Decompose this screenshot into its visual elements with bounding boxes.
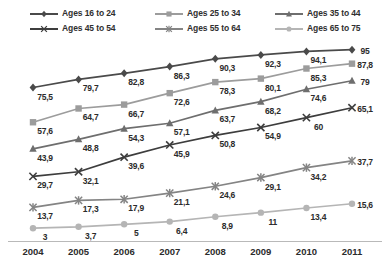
- data-point: [75, 105, 81, 111]
- data-label: 57,6: [37, 126, 53, 136]
- legend-item-ages-16-to-24[interactable]: Ages 16 to 24: [30, 6, 116, 21]
- data-point: [121, 69, 128, 77]
- data-label: 13,4: [311, 212, 327, 222]
- data-point: [30, 84, 37, 92]
- x-axis-tick-label: 2011: [342, 246, 363, 257]
- legend-marker-icon: [155, 9, 183, 19]
- x-axis-line: [8, 241, 382, 242]
- data-point: [349, 60, 355, 66]
- data-label: 94,1: [311, 55, 327, 65]
- line-chart: Ages 16 to 24Ages 45 to 54Ages 25 to 34A…: [0, 0, 390, 273]
- data-point: [30, 119, 36, 125]
- data-label: 5: [134, 228, 139, 238]
- x-axis-tick-label: 2005: [68, 246, 89, 257]
- data-label: 48,8: [83, 143, 99, 153]
- data-point: [303, 47, 310, 55]
- series-ages-25-to-34: [30, 60, 355, 125]
- data-label: 24,6: [219, 190, 235, 200]
- legend-marker-icon: [155, 24, 183, 34]
- data-label: 32,1: [83, 176, 99, 186]
- data-point: [212, 79, 218, 85]
- data-label: 60: [314, 122, 323, 132]
- data-label: 90,3: [219, 63, 235, 73]
- legend-marker-icon: [275, 9, 303, 19]
- chart-legend: Ages 16 to 24Ages 45 to 54Ages 25 to 34A…: [0, 6, 390, 36]
- x-axis-tick-label: 2009: [250, 246, 271, 257]
- data-point: [349, 201, 355, 207]
- data-label: 57,1: [174, 127, 190, 137]
- data-label: 54,3: [128, 133, 144, 143]
- legend-item-ages-35-to-44[interactable]: Ages 35 to 44: [275, 6, 361, 21]
- series-line: [33, 64, 352, 123]
- data-label: 3,7: [85, 231, 96, 241]
- data-point: [121, 101, 127, 107]
- legend-column: Ages 16 to 24Ages 45 to 54: [30, 6, 116, 36]
- legend-marker-icon: [275, 24, 303, 34]
- data-label: 39,6: [128, 161, 144, 171]
- data-label: 80,1: [265, 83, 281, 93]
- data-label: 82,8: [128, 77, 144, 87]
- data-label: 75,5: [37, 92, 53, 102]
- data-label: 8,9: [222, 221, 233, 231]
- legend-marker-icon: [30, 9, 58, 19]
- data-point: [167, 218, 173, 224]
- data-point: [258, 75, 264, 81]
- series-ages-55-to-64: [29, 157, 355, 212]
- data-label: 66,7: [128, 109, 144, 119]
- legend-item-ages-65-to-75[interactable]: Ages 65 to 75: [275, 21, 361, 36]
- data-label: 43,9: [37, 153, 53, 163]
- data-point: [212, 55, 219, 63]
- x-axis-tick-label: 2010: [296, 246, 317, 257]
- data-label: 92,3: [265, 59, 281, 69]
- legend-label: Ages 35 to 44: [307, 9, 361, 18]
- x-axis-tick-label: 2004: [22, 246, 43, 257]
- legend-marker-icon: [30, 24, 58, 34]
- series-line: [33, 161, 352, 208]
- data-point: [349, 46, 356, 54]
- data-label: 65,1: [357, 104, 373, 114]
- data-label: 21,1: [174, 197, 190, 207]
- data-point: [75, 224, 81, 230]
- data-label: 68,2: [265, 106, 281, 116]
- data-label: 87,8: [357, 60, 373, 70]
- legend-column: Ages 25 to 34Ages 55 to 64: [155, 6, 241, 36]
- data-label: 6,4: [176, 226, 187, 236]
- data-label: 95: [360, 46, 369, 56]
- data-label: 37,7: [357, 157, 373, 167]
- data-label: 45,9: [174, 149, 190, 159]
- data-label: 29,1: [265, 182, 281, 192]
- legend-label: Ages 25 to 34: [187, 9, 241, 18]
- data-label: 72,6: [174, 97, 190, 107]
- x-axis-tick-label: 2008: [205, 246, 226, 257]
- data-point: [75, 75, 82, 83]
- data-point: [258, 209, 264, 215]
- series-ages-65-to-75: [30, 201, 355, 232]
- x-axis-tick-label: 2007: [159, 246, 180, 257]
- data-label: 64,7: [83, 112, 99, 122]
- x-axis-labels: 20042005200620072008200920102011: [0, 246, 390, 266]
- legend-item-ages-55-to-64[interactable]: Ages 55 to 64: [155, 21, 241, 36]
- data-point: [348, 77, 355, 84]
- data-point: [167, 90, 173, 96]
- legend-item-ages-45-to-54[interactable]: Ages 45 to 54: [30, 21, 116, 36]
- data-label: 15,6: [357, 200, 373, 210]
- data-label: 29,7: [37, 180, 53, 190]
- data-point: [303, 65, 309, 71]
- data-point: [121, 221, 127, 227]
- data-label: 74,6: [311, 93, 327, 103]
- data-label: 34,2: [311, 172, 327, 182]
- data-label: 79,7: [83, 83, 99, 93]
- data-label: 85,3: [311, 73, 327, 83]
- data-label: 17,9: [128, 203, 144, 213]
- data-point: [303, 205, 309, 211]
- data-label: 63,7: [219, 114, 235, 124]
- legend-label: Ages 16 to 24: [62, 9, 116, 18]
- legend-label: Ages 45 to 54: [62, 24, 116, 33]
- data-label: 11: [269, 217, 278, 227]
- plot-svg: [0, 36, 390, 236]
- data-label: 13,7: [37, 211, 53, 221]
- data-label: 17,3: [83, 204, 99, 214]
- data-point: [166, 63, 173, 71]
- legend-item-ages-25-to-34[interactable]: Ages 25 to 34: [155, 6, 241, 21]
- legend-label: Ages 65 to 75: [307, 24, 361, 33]
